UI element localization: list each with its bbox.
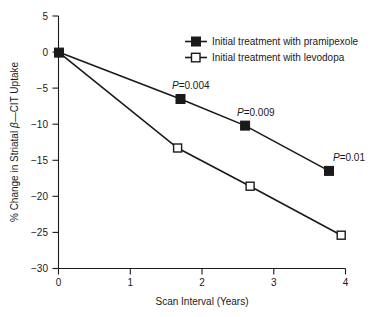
x-tick-label-1: 1	[128, 277, 134, 288]
x-tick-label-4: 4	[343, 277, 349, 288]
pramipexole-point-1[interactable]	[176, 95, 185, 104]
x-tick-labels: 0 1 2 3 4	[56, 277, 349, 288]
annotation-p-0009: P=0.009	[237, 107, 275, 118]
y-tick-label-m15: −15	[31, 155, 48, 166]
legend-marker-open-square	[192, 53, 201, 62]
y-tick-label-m5: −5	[37, 83, 49, 94]
legend-label-pramipexole: Initial treatment with pramipexole	[212, 36, 359, 47]
x-tick-label-2: 2	[199, 277, 205, 288]
y-tick-label-0: 0	[42, 47, 48, 58]
annotation-p-001: P=0.01	[333, 152, 365, 163]
legend-item-pramipexole[interactable]: Initial treatment with pramipexole	[185, 36, 359, 47]
y-tick-label-m10: −10	[31, 119, 48, 130]
x-axis-title: Scan Interval (Years)	[155, 296, 248, 307]
y-tick-labels: 5 0 −5 −10 −15 −20 −25 −30	[31, 11, 48, 275]
svg-text:% Change in Striatal β—CIT Upt: % Change in Striatal β—CIT Uptake	[9, 62, 20, 223]
legend-marker-filled-square	[192, 37, 201, 46]
legend: Initial treatment with pramipexole Initi…	[185, 36, 359, 63]
line-chart-svg: 5 0 −5 −10 −15 −20 −25 −30 0 1 2 3 4 Sca…	[0, 0, 386, 317]
y-tick-label-5: 5	[42, 11, 48, 22]
y-tick-label-m20: −20	[31, 191, 48, 202]
annotation-p-0009-text: =0.009	[244, 107, 275, 118]
pramipexole-point-0[interactable]	[55, 48, 64, 57]
legend-item-levodopa[interactable]: Initial treatment with levodopa	[185, 52, 345, 63]
chart-figure: 5 0 −5 −10 −15 −20 −25 −30 0 1 2 3 4 Sca…	[0, 0, 386, 317]
y-axis-title-part1: % Change in Striatal	[9, 128, 20, 222]
x-tick-label-0: 0	[56, 277, 62, 288]
y-tick-label-m30: −30	[31, 263, 48, 274]
levodopa-point-3[interactable]	[337, 231, 345, 239]
annotations: P=0.004 P=0.009 P=0.01	[172, 80, 365, 163]
y-axis-title-part2: —CIT Uptake	[9, 62, 20, 123]
y-tick-label-m25: −25	[31, 227, 48, 238]
pramipexole-point-2[interactable]	[241, 121, 250, 130]
annotation-p-0004: P=0.004	[172, 80, 210, 91]
pramipexole-line	[59, 52, 330, 171]
pramipexole-point-3[interactable]	[325, 166, 334, 175]
levodopa-point-2[interactable]	[246, 182, 254, 190]
legend-label-levodopa: Initial treatment with levodopa	[212, 52, 345, 63]
levodopa-point-1[interactable]	[174, 144, 182, 152]
annotation-p-0004-text: =0.004	[179, 80, 210, 91]
y-axis-title: % Change in Striatal β—CIT Uptake	[9, 62, 20, 223]
x-tick-label-3: 3	[271, 277, 277, 288]
annotation-p-001-text: =0.01	[340, 152, 366, 163]
x-axis	[59, 269, 346, 275]
